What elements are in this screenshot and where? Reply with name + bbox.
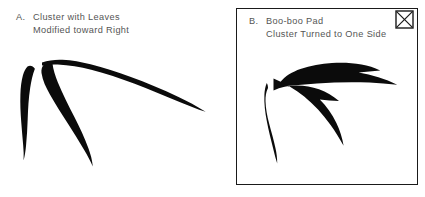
leaf-left-descending <box>20 66 35 161</box>
panel-b-caption-text-1: Boo-boo Pad <box>266 16 324 26</box>
panel-b-leaf-cluster <box>247 54 417 179</box>
panel-b-caption-line-1: B.Boo-boo Pad <box>249 15 386 28</box>
panel-a-caption-line-2: Modified toward Right <box>16 24 129 37</box>
panel-b-caption: B.Boo-boo Pad Cluster Turned to One Side <box>249 15 386 41</box>
panel-b-letter: B. <box>249 15 266 28</box>
panel-a-letter: A. <box>16 11 33 24</box>
panel-a-leaf-cluster <box>0 52 232 192</box>
leaf-middle-diagonal <box>274 78 344 145</box>
panel-b-caption-line-2: Cluster Turned to One Side <box>249 28 386 41</box>
leaf-lower-vertical <box>264 83 277 163</box>
panel-a-caption-line-1: A.Cluster with Leaves <box>16 11 129 24</box>
panel-b: B.Boo-boo Pad Cluster Turned to One Side <box>236 8 418 185</box>
figure-root: A.Cluster with Leaves Modified toward Ri… <box>0 0 425 197</box>
leaf-center-descending <box>41 62 92 166</box>
x-box-icon[interactable] <box>395 10 414 29</box>
panel-a-caption: A.Cluster with Leaves Modified toward Ri… <box>16 11 129 37</box>
leaf-upper-horizontal <box>280 63 397 87</box>
panel-a-caption-text-1: Cluster with Leaves <box>33 12 120 22</box>
panel-a: A.Cluster with Leaves Modified toward Ri… <box>0 0 232 197</box>
